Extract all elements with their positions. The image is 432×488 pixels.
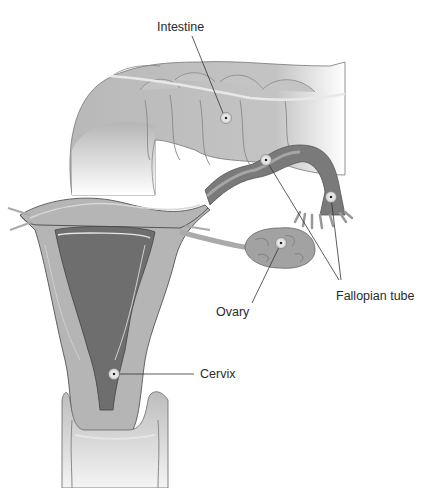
label-intestine: Intestine bbox=[157, 21, 204, 34]
uterus-shape bbox=[8, 198, 250, 435]
label-fallopian-tube: Fallopian tube bbox=[336, 290, 415, 303]
label-ovary: Ovary bbox=[216, 306, 249, 319]
intestine-shape bbox=[70, 62, 345, 195]
label-cervix: Cervix bbox=[200, 368, 235, 381]
anatomy-illustration bbox=[0, 0, 432, 488]
